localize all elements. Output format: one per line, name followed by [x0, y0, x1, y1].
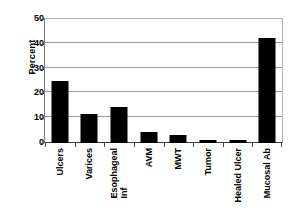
y-tick-label: 40 [6, 39, 44, 48]
x-tick-label-line: Esophageal [109, 148, 119, 199]
x-tick-label: AVM [144, 148, 154, 167]
x-tick-label: Healed Ulcer [233, 148, 243, 203]
bar-slot [45, 19, 75, 143]
x-tick-label: Ulcers [55, 148, 65, 176]
x-tick-label: Tumor [203, 148, 213, 175]
bar-slot [164, 19, 194, 143]
x-tick-label: EsophagealInf [109, 148, 129, 199]
x-tick-label-line: MWT [173, 148, 183, 170]
bar-slot [193, 19, 223, 143]
x-tick-mark [281, 143, 282, 147]
bar[interactable] [81, 114, 98, 143]
x-tick-mark [193, 143, 194, 147]
bar[interactable] [111, 107, 128, 143]
x-tick-label-line: Mucosal Ab [262, 148, 272, 198]
x-tick-label-line: Healed Ulcer [233, 148, 243, 203]
x-tick-mark [45, 143, 46, 147]
bar[interactable] [51, 81, 68, 143]
bar-chart: Percent 01020304050 UlcersVaricesEsophag… [0, 0, 296, 217]
x-tick-label-line: Tumor [203, 148, 213, 175]
x-tick-label-line: Varices [84, 148, 94, 180]
x-label-slot: Varices [75, 148, 105, 214]
x-label-slot: Tumor [193, 148, 223, 214]
x-tick-label-line: AVM [144, 148, 154, 167]
bar-slot [223, 19, 253, 143]
x-label-slot: AVM [134, 148, 164, 214]
bar-slot [134, 19, 164, 143]
bar[interactable] [259, 38, 276, 143]
y-tick-mark [40, 143, 44, 144]
x-tick-mark [223, 143, 224, 147]
x-tick-label-line: Ulcers [55, 148, 65, 176]
x-label-slot: MWT [164, 148, 194, 214]
x-tick-mark [75, 143, 76, 147]
x-axis-labels: UlcersVaricesEsophagealInfAVMMWTTumorHea… [45, 148, 282, 214]
bars-layer [45, 19, 282, 143]
y-tick-label: 10 [6, 113, 44, 122]
x-tick-label: Varices [84, 148, 94, 180]
y-tick-label: 0 [6, 138, 44, 147]
y-tick-label: 20 [6, 88, 44, 97]
x-label-slot: Healed Ulcer [223, 148, 253, 214]
x-label-slot: Ulcers [45, 148, 75, 214]
x-tick-label: MWT [173, 148, 183, 170]
x-label-slot: Mucosal Ab [252, 148, 282, 214]
x-label-slot: EsophagealInf [104, 148, 134, 214]
bar-slot [75, 19, 105, 143]
x-tick-label-line: Inf [119, 148, 129, 199]
x-tick-mark [134, 143, 135, 147]
bar[interactable] [170, 135, 187, 143]
x-tick-mark [104, 143, 105, 147]
y-axis-ticks: 01020304050 [0, 18, 44, 144]
x-tick-mark [164, 143, 165, 147]
x-tick-label: Mucosal Ab [262, 148, 272, 198]
x-tick-mark [252, 143, 253, 147]
y-tick-label: 50 [6, 14, 44, 23]
bar-slot [252, 19, 282, 143]
y-tick-label: 30 [6, 64, 44, 73]
bar-slot [104, 19, 134, 143]
bar[interactable] [140, 132, 157, 143]
